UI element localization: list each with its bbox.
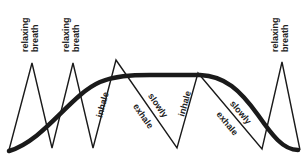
breathing-diagram: relaxing breath relaxing breath relaxing… [0,0,303,161]
svg-text:breath: breath [30,24,40,52]
svg-text:inhale: inhale [94,91,110,119]
svg-text:relaxing: relaxing [270,17,280,52]
svg-text:relaxing: relaxing [61,17,71,52]
exhale-label-1: exhale [131,102,155,131]
inhale-label-2: inhale [176,90,193,118]
svg-text:relaxing: relaxing [20,17,30,52]
svg-text:inhale: inhale [176,90,193,118]
relaxing-breath-label-2: relaxing breath [61,17,81,52]
relaxing-breath-label-3: relaxing breath [270,17,290,52]
svg-text:breath: breath [71,24,81,52]
svg-text:exhale: exhale [131,102,155,131]
inhale-label-1: inhale [94,91,110,119]
relaxing-breath-label-1: relaxing breath [20,17,40,52]
svg-text:breath: breath [280,24,290,52]
